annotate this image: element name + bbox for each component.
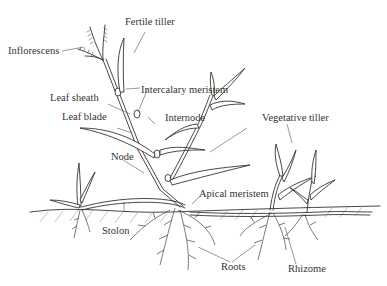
label-fertile-tiller: Fertile tiller (125, 17, 175, 28)
label-leaf-blade: Leaf blade (62, 112, 107, 123)
label-rhizome: Rhizome (288, 264, 326, 275)
plant-illustration (0, 0, 387, 286)
label-vegetative-tiller: Vegetative tiller (262, 113, 329, 124)
label-roots: Roots (221, 262, 246, 273)
label-internode: Internode (165, 113, 205, 124)
label-node: Node (111, 152, 134, 163)
label-intercalary-meristem: Intercalary meristem (141, 85, 228, 96)
roots-shape (72, 208, 318, 270)
grass-anatomy-diagram: Fertile tiller Inflorescens Intercalary … (0, 0, 387, 286)
rhizome-shape (190, 212, 372, 214)
small-shoot (50, 163, 95, 208)
label-stolon: Stolon (102, 226, 129, 237)
inflorescence-shape (78, 25, 107, 60)
label-inflorescens: Inflorescens (8, 46, 59, 57)
label-leaf-sheath: Leaf sheath (50, 93, 99, 104)
label-apical-meristem: Apical meristem (199, 189, 269, 200)
vegetative-tiller-shape (270, 144, 335, 212)
